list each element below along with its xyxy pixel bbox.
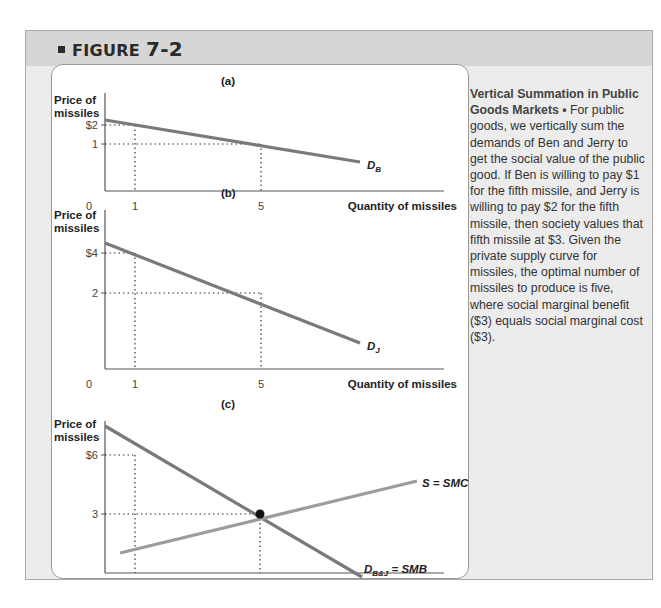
y-tick-a-1: 1 [92, 138, 98, 150]
charts-svg: .axis { stroke:#555; stroke-width:1.2; f… [52, 65, 470, 580]
x-axis-label-b: Quantity of missiles [348, 378, 457, 390]
figure-label: FIGURE [72, 41, 140, 60]
panel-label-a: (a) [221, 75, 235, 87]
y-axis-label-a-line1: Price of [54, 94, 96, 106]
x-tick-a-0: 1 [132, 200, 138, 212]
y-tick-b-0: $4 [86, 247, 98, 259]
figure-title: FIGURE 7-2 [58, 37, 183, 61]
curve-label-smb: DB&J = SMB [364, 563, 427, 578]
x-tick-b-0: 1 [132, 378, 138, 390]
caption-separator: • [562, 103, 566, 117]
figure-header: FIGURE 7-2 [26, 31, 652, 66]
y-axis-label-a-line2: missiles [54, 107, 99, 119]
figure-number: 7-2 [146, 37, 183, 61]
panel-label-b: (b) [221, 187, 236, 199]
panel-label-c: (c) [221, 398, 235, 410]
y-axis-label-b-line1: Price of [54, 209, 96, 221]
y-tick-c-0: $6 [86, 449, 98, 461]
y-axis-label-b-line2: missiles [54, 222, 99, 234]
y-axis-label-c-line1: Price of [54, 418, 96, 430]
chart-c: (c) Price of missiles $6 3 0 1 5 Quan [54, 398, 469, 580]
curve-label-dj: DJ [367, 340, 380, 355]
y-tick-c-1: 3 [92, 508, 98, 520]
equilibrium-point [256, 510, 265, 519]
chart-b: (b) Price of missiles $4 2 0 1 5 Quantit… [54, 187, 457, 390]
caption-body: For public goods, we vertically sum the … [470, 103, 645, 344]
y-tick-b-1: 2 [92, 287, 98, 299]
curve-label-db: DB [367, 159, 381, 174]
graph-panel: .axis { stroke:#555; stroke-width:1.2; f… [51, 64, 469, 579]
curve-label-smc: S = SMC [422, 477, 469, 489]
social-demand-curve [105, 426, 362, 577]
x-axis-label-a: Quantity of missiles [348, 200, 457, 212]
demand-curve-jerry [105, 243, 360, 343]
square-bullet-icon [58, 46, 65, 53]
figure-caption: Vertical Summation in Public Goods Marke… [470, 86, 646, 345]
x-tick-b-1: 5 [258, 378, 264, 390]
y-tick-a-0: $2 [86, 119, 98, 131]
y-axis-label-c-line2: missiles [54, 431, 99, 443]
demand-curve-ben [105, 120, 360, 162]
origin-b: 0 [86, 378, 92, 390]
chart-a: (a) Price of missiles $2 1 0 1 5 Quantit… [54, 75, 457, 212]
supply-curve [120, 481, 417, 553]
x-tick-a-1: 5 [258, 200, 264, 212]
